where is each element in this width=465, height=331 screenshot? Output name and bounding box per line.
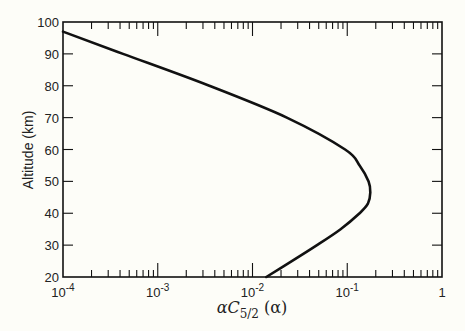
y-tick-label: 60: [45, 143, 59, 158]
y-tick-label: 70: [45, 111, 59, 126]
x-tick-label: 10-3: [146, 282, 170, 300]
altitude-profile-chart: 10-410-310-210-11 2030405060708090100 Al…: [0, 0, 465, 331]
y-axis-tick-labels: 2030405060708090100: [37, 15, 59, 285]
y-tick-label: 90: [45, 47, 59, 62]
y-tick-label: 40: [45, 206, 59, 221]
data-curve: [63, 32, 370, 277]
y-tick-label: 100: [37, 15, 59, 30]
y-tick-label: 50: [45, 174, 59, 189]
x-axis-label: αC5/2 (α): [217, 298, 288, 321]
y-axis-label: Altitude (km): [20, 111, 36, 190]
plot-border: [63, 22, 442, 277]
y-tick-label: 80: [45, 79, 59, 94]
y-tick-label: 20: [45, 270, 59, 285]
plot-frame: [63, 22, 442, 277]
x-axis-tick-labels: 10-410-310-210-11: [51, 282, 445, 300]
y-tick-label: 30: [45, 238, 59, 253]
x-tick-label: 10-1: [336, 282, 360, 300]
y-axis-ticks: [63, 54, 442, 245]
x-tick-label: 1: [438, 285, 445, 300]
